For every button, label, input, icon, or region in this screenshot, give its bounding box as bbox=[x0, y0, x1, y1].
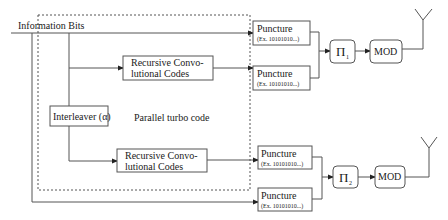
turbo-code-diagram: Parallel turbo code Information Bits Rec… bbox=[0, 0, 448, 220]
interleaver: Interleaver (α) bbox=[50, 106, 111, 126]
modulator-1: MOD bbox=[370, 40, 402, 63]
puncture-2: Puncture (Ex. 10101010...) bbox=[253, 66, 310, 90]
svg-text:lutional Codes: lutional Codes bbox=[131, 68, 189, 79]
input-label: Information Bits bbox=[18, 20, 84, 31]
svg-text:Π: Π bbox=[336, 44, 345, 59]
svg-text:1: 1 bbox=[346, 54, 349, 60]
svg-text:MOD: MOD bbox=[378, 171, 401, 182]
puncture-4: Puncture (Ex. 10101010...) bbox=[258, 188, 312, 211]
mod2-to-antenna bbox=[405, 148, 429, 177]
svg-text:2: 2 bbox=[349, 180, 352, 186]
svg-text:(Ex. 10101010...): (Ex. 10101010...) bbox=[257, 81, 299, 88]
permuter-2: Π 2 bbox=[333, 166, 358, 188]
antenna-2-icon bbox=[421, 137, 437, 148]
mod1-to-antenna bbox=[402, 20, 423, 49]
svg-text:(Ex. 10101010...): (Ex. 10101010...) bbox=[261, 161, 303, 168]
svg-text:Puncture: Puncture bbox=[261, 190, 297, 201]
svg-text:(Ex. 10101010...): (Ex. 10101010...) bbox=[257, 36, 299, 43]
modulator-2: MOD bbox=[375, 166, 405, 188]
svg-text:Puncture: Puncture bbox=[261, 148, 297, 159]
merge-upper bbox=[310, 32, 319, 78]
turbo-code-label: Parallel turbo code bbox=[134, 112, 210, 123]
svg-text:Recursive Convo-: Recursive Convo- bbox=[125, 150, 198, 161]
svg-text:Puncture: Puncture bbox=[257, 68, 293, 79]
permuter-1: Π 1 bbox=[330, 40, 355, 63]
puncture-3: Puncture (Ex. 10101010...) bbox=[258, 146, 312, 169]
puncture-1: Puncture (Ex. 10101010...) bbox=[253, 21, 310, 45]
merge-lower bbox=[312, 157, 322, 199]
antenna-1-icon bbox=[415, 9, 432, 20]
svg-text:Interleaver (α): Interleaver (α) bbox=[53, 111, 111, 123]
interleaver-to-rcc2 bbox=[69, 126, 117, 161]
encoder-2: Recursive Convo- lutional Codes bbox=[117, 149, 207, 172]
svg-text:lutional Codes: lutional Codes bbox=[125, 161, 183, 172]
encoder-1: Recursive Convo- lutional Codes bbox=[123, 56, 213, 80]
svg-text:MOD: MOD bbox=[374, 46, 397, 57]
svg-text:Puncture: Puncture bbox=[257, 23, 293, 34]
svg-text:(Ex. 10101010...): (Ex. 10101010...) bbox=[261, 203, 303, 210]
svg-text:Π: Π bbox=[339, 170, 348, 185]
svg-text:Recursive Convo-: Recursive Convo- bbox=[131, 57, 204, 68]
